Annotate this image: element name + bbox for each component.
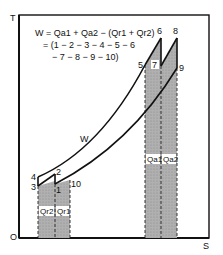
- point-9-label: 9: [179, 63, 184, 73]
- point-7-label: 7: [152, 60, 157, 70]
- work-label: W: [80, 134, 89, 144]
- equation-line-2: = (1 − 2 − 3 − 4 − 5 − 6: [43, 40, 135, 50]
- origin-label: O: [10, 232, 17, 242]
- t-axis-label: T: [10, 13, 16, 23]
- s-axis-label: S: [203, 241, 209, 251]
- equation-line-1: W = Qa1 + Qa2 − (Qr1 + Qr2): [35, 28, 155, 38]
- ts-diagram: T S O W = Qa1 + Qa2 − (Qr1 + Qr2) = (1 −…: [0, 0, 223, 255]
- qr1-label: Qr1: [57, 207, 71, 216]
- point-4-label: 4: [31, 172, 36, 182]
- point-6-label: 6: [157, 26, 162, 36]
- point-5-label: 5: [138, 60, 143, 70]
- point-8-label: 8: [173, 26, 178, 36]
- qa1-label: Qa1: [147, 155, 163, 164]
- qa2-area: [161, 38, 177, 238]
- point-2-label: 2: [56, 167, 61, 177]
- qa2-label: Qa2: [163, 155, 179, 164]
- point-1-label: 1: [56, 185, 61, 195]
- qr2-label: Qr2: [40, 207, 54, 216]
- equation-line-3: − 7 − 8 − 9 − 10): [52, 52, 119, 62]
- point-3-label: 3: [31, 182, 36, 192]
- point-10-label: 10: [71, 179, 81, 189]
